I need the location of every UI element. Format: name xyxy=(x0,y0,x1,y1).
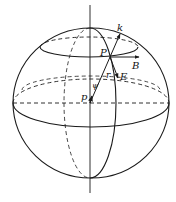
k-vector xyxy=(110,34,120,57)
label-P: P xyxy=(99,47,107,58)
label-B: B xyxy=(131,60,139,71)
radius-line xyxy=(90,57,110,103)
latitude-back xyxy=(40,37,138,47)
label-E: E xyxy=(119,71,128,82)
latitude-front xyxy=(40,47,138,57)
equator-front xyxy=(13,103,169,127)
label-k: k xyxy=(117,22,123,33)
label-psi: ψ xyxy=(92,81,99,90)
label-p: p xyxy=(81,91,88,102)
sphere-diagram: k P B E r ψ p xyxy=(0,0,176,202)
inner-latitude-back xyxy=(22,76,160,90)
label-r: r xyxy=(106,70,111,80)
